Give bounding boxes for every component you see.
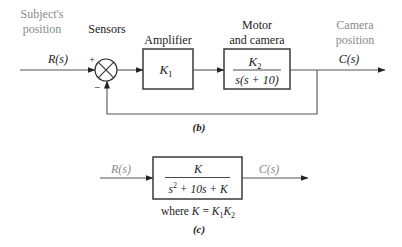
caption-b: (b) — [193, 121, 206, 134]
figure-b: Subject's position R(s) Sensors + − Ampl… — [20, 7, 385, 134]
output-label-line2: position — [336, 33, 375, 47]
block-diagram: Subject's position R(s) Sensors + − Ampl… — [0, 0, 402, 247]
where-note: where K = K1K2 — [161, 205, 235, 220]
c-output-signal-label: C(s) — [259, 162, 280, 176]
motor-tf-denominator: s(s + 10) — [235, 73, 278, 87]
amplifier-label: Amplifier — [144, 33, 191, 47]
output-label-line1: Camera — [336, 18, 374, 32]
caption-c: (c) — [193, 223, 205, 236]
figure-c: R(s) K s2 + 10s + K C(s) where K = K1K2 … — [100, 157, 308, 236]
input-label-line1: Subject's — [21, 7, 64, 21]
input-signal-label: R(s) — [47, 52, 68, 66]
minus-sign: − — [94, 81, 100, 93]
output-signal-label: C(s) — [339, 52, 360, 66]
plus-sign: + — [89, 54, 95, 65]
sensors-label: Sensors — [88, 22, 126, 36]
motor-label-line2: and camera — [230, 33, 286, 47]
c-input-signal-label: R(s) — [110, 162, 131, 176]
motor-label-line1: Motor — [242, 18, 272, 32]
closed-loop-denominator: s2 + 10s + K — [168, 181, 228, 195]
closed-loop-numerator: K — [193, 162, 203, 176]
summing-junction — [95, 59, 117, 81]
input-label-line2: position — [23, 22, 62, 36]
